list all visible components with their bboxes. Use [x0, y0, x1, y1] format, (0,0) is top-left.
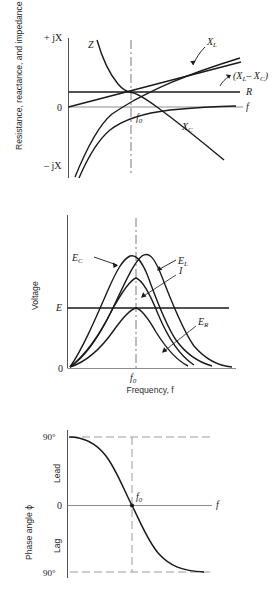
chart2-arrow-ec	[113, 263, 118, 268]
chart2-ytick-E: E	[55, 302, 62, 313]
chart2-series-I	[70, 278, 194, 367]
chart3-resonance-point-marker	[130, 503, 134, 507]
impedance-chart: + jX 0 – jX Resistance, reactance, and i…	[14, 1, 269, 178]
chart2-label-f0: f0	[130, 372, 137, 385]
chart3-label-f0: f0	[136, 491, 143, 504]
chart2-leader-i	[142, 275, 176, 297]
chart1-label-f-axis: f	[246, 101, 250, 112]
chart1-y-axis-title: Resistance, reactance, and impedance	[14, 1, 24, 150]
chart2-leader-er	[163, 326, 196, 352]
chart2-label-i: I	[178, 265, 183, 276]
chart1-ytick-top: + jX	[44, 32, 63, 43]
chart1-arrow-xl	[190, 60, 195, 65]
resonance-figure-svg: + jX 0 – jX Resistance, reactance, and i…	[0, 0, 274, 600]
chart1-leader-xl	[193, 47, 205, 65]
chart2-series-EL	[70, 254, 232, 367]
chart1-label-f0: f0	[136, 112, 143, 125]
chart3-label-f-axis: f	[216, 499, 220, 510]
chart3-ytick-top: 90°	[43, 432, 56, 442]
chart3-ytick-bottom: 90°	[43, 568, 56, 578]
chart1-series-Z	[97, 40, 224, 160]
chart1-ytick-bottom: – jX	[43, 160, 62, 171]
chart1-label-r: R	[245, 86, 252, 97]
chart3-ytick-zero: 0	[57, 500, 62, 511]
chart1-ytick-zero: 0	[57, 102, 62, 113]
phase-angle-chart: 90° 0 90° Phase angle ϕ Lead Lag f0 f	[24, 430, 220, 578]
chart1-label-xl-minus-xc: (XL– XC)	[233, 70, 269, 83]
voltage-chart: E 0 Voltage f0 Frequency, f EC EL I ER	[30, 215, 236, 395]
chart1-series-XL-minus-XC	[75, 58, 240, 177]
chart3-y-axis-title: Phase angle ϕ	[24, 505, 34, 560]
chart1-label-xc: XC	[181, 121, 193, 134]
chart1-label-xl: XL	[206, 36, 217, 49]
chart3-region-label-lead: Lead	[52, 464, 62, 483]
chart1-series-XC	[79, 106, 236, 178]
chart2-y-axis-title: Voltage	[30, 281, 40, 310]
chart3-region-label-lag: Lag	[52, 538, 62, 553]
chart1-label-z: Z	[88, 39, 94, 50]
chart3-series-phi	[69, 437, 204, 572]
chart2-ytick-zero: 0	[58, 363, 63, 374]
resonance-figure-panel: + jX 0 – jX Resistance, reactance, and i…	[0, 0, 274, 600]
chart2-label-ec: EC	[71, 252, 83, 265]
chart2-x-axis-title: Frequency, f	[126, 385, 174, 395]
chart1-series-XL	[69, 62, 242, 107]
chart2-label-er: ER	[197, 316, 209, 329]
